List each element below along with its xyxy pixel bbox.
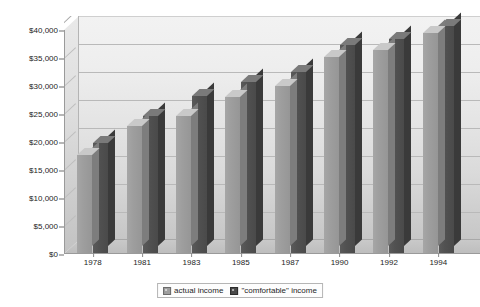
x-axis-tick-mark	[340, 253, 341, 257]
bar-group	[167, 16, 216, 254]
y-axis-tick-mark	[59, 254, 64, 255]
bar	[77, 155, 92, 253]
bar-side	[108, 129, 115, 246]
bar-side	[438, 20, 445, 246]
comfortable-income-swatch	[230, 287, 238, 295]
x-axis-tick-mark	[142, 253, 143, 257]
x-axis-tick-label: 1994	[429, 258, 447, 267]
y-axis: $0$5,000$10,000$15,000$20,000$25,000$30,…	[0, 0, 58, 307]
bar-face	[423, 33, 438, 253]
bar-side	[142, 112, 149, 246]
bar-face	[127, 126, 142, 253]
x-axis-tick-label: 1978	[84, 258, 102, 267]
bar	[176, 116, 191, 253]
bar-group	[216, 16, 265, 254]
bar-side	[339, 43, 346, 246]
x-axis-tick-mark	[93, 253, 94, 257]
x-axis-tick-label: 1981	[133, 258, 151, 267]
y-axis-tick-label: $30,000	[29, 82, 58, 91]
bar-side	[92, 141, 99, 246]
bar-face	[324, 57, 339, 253]
y-axis-tick-label: $0	[49, 250, 58, 259]
x-axis-tick-mark	[241, 253, 242, 257]
bar-side	[191, 103, 198, 246]
bar	[127, 126, 142, 253]
bar	[225, 97, 240, 253]
legend-item-label: "comfortable" income	[241, 286, 317, 295]
legend-item[interactable]: "comfortable" income	[230, 286, 317, 295]
legend-item[interactable]: actual income	[163, 286, 223, 295]
bar-side	[306, 59, 313, 246]
bar-face	[373, 50, 388, 253]
bar	[275, 86, 290, 253]
chart-legend: actual income"comfortable" income	[157, 283, 323, 298]
y-axis-tick-label: $10,000	[29, 194, 58, 203]
x-axis-tick-label: 1985	[232, 258, 250, 267]
y-axis-tick-label: $5,000	[34, 222, 58, 231]
x-axis-tick-mark	[438, 253, 439, 257]
plot-area	[64, 16, 480, 254]
bar-side	[404, 26, 411, 246]
y-axis-tick-label: $15,000	[29, 166, 58, 175]
bar-side	[207, 83, 214, 246]
bar-chart: $0$5,000$10,000$15,000$20,000$25,000$30,…	[0, 0, 480, 307]
bars-layer	[64, 16, 480, 254]
bar-face	[77, 155, 92, 253]
bar-face	[176, 116, 191, 253]
x-axis-tick-label: 1987	[281, 258, 299, 267]
x-axis-tick-mark	[191, 253, 192, 257]
bar-group	[266, 16, 315, 254]
bar	[373, 50, 388, 253]
x-axis-tick-mark	[290, 253, 291, 257]
bar-face	[275, 86, 290, 253]
bar-side	[240, 83, 247, 246]
bar-side	[454, 13, 461, 246]
x-axis-tick-label: 1992	[380, 258, 398, 267]
bar-group	[414, 16, 463, 254]
x-axis: 19781981198319851987199019921994	[64, 258, 480, 274]
y-axis-tick-label: $25,000	[29, 110, 58, 119]
y-axis-tick-label: $20,000	[29, 138, 58, 147]
x-axis-tick-mark	[389, 253, 390, 257]
bar	[423, 33, 438, 253]
bar-side	[355, 31, 362, 246]
bar-group	[315, 16, 364, 254]
y-axis-tick-label: $35,000	[29, 54, 58, 63]
bar	[324, 57, 339, 253]
x-axis-tick-label: 1983	[183, 258, 201, 267]
bar-side	[290, 73, 297, 246]
actual-income-swatch	[163, 287, 171, 295]
bar-side	[158, 102, 165, 246]
legend-item-label: actual income	[174, 286, 223, 295]
x-axis-tick-label: 1990	[331, 258, 349, 267]
bar-group	[364, 16, 413, 254]
y-axis-tick-label: $40,000	[29, 26, 58, 35]
bar-group	[117, 16, 166, 254]
bar-face	[225, 97, 240, 253]
bar-side	[256, 69, 263, 246]
bar-group	[68, 16, 117, 254]
bar-side	[388, 37, 395, 246]
